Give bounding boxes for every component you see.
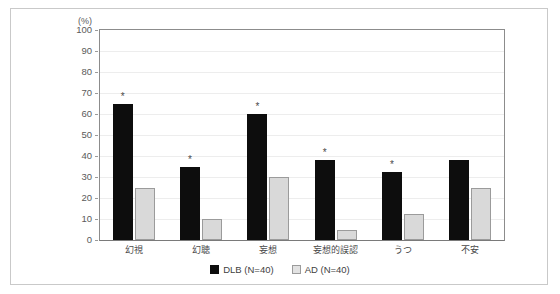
legend-item: AD (N=40) <box>292 264 350 275</box>
legend-label: AD (N=40) <box>305 264 350 275</box>
bar-dlb <box>449 160 469 240</box>
bar-ad <box>404 214 424 240</box>
bar-ad <box>337 230 357 241</box>
x-axis-category-label: 不安 <box>437 245 504 256</box>
significance-marker: * <box>385 160 399 170</box>
bar-dlb <box>315 160 335 240</box>
legend-item: DLB (N=40) <box>210 264 273 275</box>
x-axis-category-label: 妄想 <box>235 245 302 256</box>
y-axis-tick-mark <box>95 135 98 136</box>
y-axis-tick-mark <box>95 156 98 157</box>
bar-ad <box>471 188 491 241</box>
significance-marker: * <box>250 102 264 112</box>
y-axis-tick-label: 0 <box>64 235 92 245</box>
bar-dlb <box>113 104 133 241</box>
bar-ad <box>269 177 289 240</box>
y-axis-tick-label: 90 <box>64 46 92 56</box>
y-axis-tick-label: 40 <box>64 151 92 161</box>
significance-marker: * <box>116 92 130 102</box>
bar-dlb <box>382 172 402 240</box>
bars-layer: ***** <box>100 30 504 240</box>
x-axis-category-label: 妄想的誤認 <box>302 245 369 256</box>
significance-marker: * <box>318 148 332 158</box>
x-axis-category-label: うつ <box>369 245 436 256</box>
y-axis-tick-mark <box>95 30 98 31</box>
y-axis-tick-label: 20 <box>64 193 92 203</box>
significance-marker: * <box>183 155 197 165</box>
x-axis-category-label: 幻聴 <box>167 245 234 256</box>
y-axis-tick-mark <box>95 93 98 94</box>
y-axis-tick-label: 30 <box>64 172 92 182</box>
y-axis-tick-label: 80 <box>64 67 92 77</box>
bar-dlb <box>180 167 200 241</box>
y-axis-tick-label: 50 <box>64 130 92 140</box>
y-axis-tick-mark <box>95 177 98 178</box>
bar-ad <box>135 188 155 241</box>
legend-label: DLB (N=40) <box>223 264 273 275</box>
y-axis-tick-mark <box>95 198 98 199</box>
bar-dlb <box>247 114 267 240</box>
y-axis-tick-mark <box>95 72 98 73</box>
legend-swatch-ad-icon <box>292 265 301 274</box>
x-axis-category-label: 幻視 <box>100 245 167 256</box>
bar-ad <box>202 219 222 240</box>
plot-area: ***** <box>99 29 505 241</box>
y-axis-tick-mark <box>95 114 98 115</box>
y-axis-tick-mark <box>95 51 98 52</box>
y-axis-tick-label: 100 <box>64 25 92 35</box>
chart-figure: (%) 1009080706050403020100 ***** 幻視幻聴妄想妄… <box>0 0 560 294</box>
legend-swatch-dlb-icon <box>210 265 219 274</box>
y-axis-tick-mark <box>95 219 98 220</box>
y-axis-tick-label: 10 <box>64 214 92 224</box>
y-axis-tick-mark <box>95 240 98 241</box>
chart-legend: DLB (N=40)AD (N=40) <box>0 264 560 275</box>
y-axis-tick-label: 70 <box>64 88 92 98</box>
y-axis-tick-label: 60 <box>64 109 92 119</box>
